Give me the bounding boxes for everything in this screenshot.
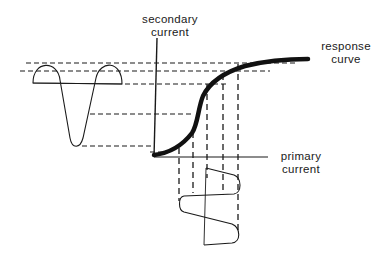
response-curve bbox=[154, 59, 308, 155]
secondary-current-label: secondary current bbox=[134, 13, 206, 39]
primary-waveform-baseline bbox=[204, 168, 206, 245]
secondary-waveform-baseline bbox=[33, 83, 122, 84]
primary-waveform bbox=[180, 168, 241, 245]
primary-current-label: primary current bbox=[270, 150, 332, 176]
secondary-waveform bbox=[33, 65, 122, 146]
secondary-current-axis bbox=[154, 38, 157, 157]
response-curve-label: response curve bbox=[310, 40, 382, 66]
horizontal-projection-lines bbox=[20, 63, 297, 152]
